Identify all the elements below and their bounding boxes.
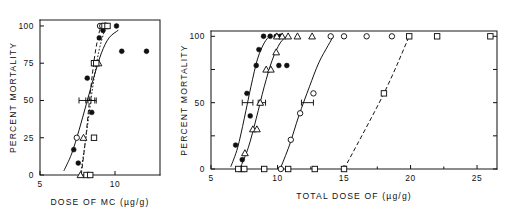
data-point-open-square: [105, 23, 110, 28]
y-tick-label: 50: [24, 95, 34, 105]
x-tick-label: 5: [37, 179, 42, 189]
data-point-filled-circle: [144, 49, 149, 54]
y-tick-label: 75: [24, 58, 34, 68]
data-point-filled-circle: [85, 76, 90, 81]
axis-spine-top-right: [40, 20, 160, 175]
y-tick-label: 100: [18, 21, 34, 31]
plot-area: [64, 23, 149, 178]
data-point-open-circle: [74, 135, 79, 140]
series-filled-circle-series: [64, 24, 149, 171]
data-point-filled-circle: [89, 110, 94, 115]
fit-curve: [81, 30, 105, 175]
y-tick-label: 0: [29, 170, 34, 180]
data-point-open-square: [88, 172, 93, 177]
y-axis-title: PERCENT MORTALITY: [8, 42, 18, 153]
x-axis-title: DOSE OF MC (µg/g): [51, 197, 150, 207]
axes-frame: [40, 20, 160, 175]
data-point-filled-circle: [119, 49, 124, 54]
data-point-filled-circle: [114, 24, 119, 29]
data-point-filled-circle: [76, 161, 81, 166]
data-point-filled-circle: [71, 147, 76, 152]
axis-spine-left-bottom: [40, 20, 160, 175]
y-tick-label: 25: [24, 133, 34, 143]
data-point-open-square: [94, 61, 99, 66]
data-point-open-square: [91, 135, 96, 140]
left-panel-chart: 0255075100510DOSE OF MC (µg/g)PERCENT MO…: [0, 0, 509, 218]
x-tick-label: 10: [110, 179, 120, 189]
figure-container: 0255075100510DOSE OF MC (µg/g)PERCENT MO…: [0, 0, 509, 218]
